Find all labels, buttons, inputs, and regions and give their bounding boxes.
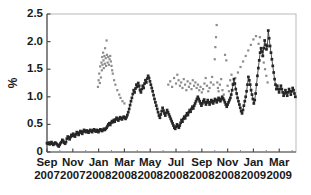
data-point [263,39,266,42]
data-point [250,89,253,92]
data-point [110,60,112,62]
data-point [173,77,175,79]
data-point [229,97,232,100]
data-point [235,92,238,95]
data-point [177,79,179,81]
data-point [216,81,218,83]
data-point [260,47,263,50]
data-point [167,84,169,86]
data-point [150,83,153,86]
data-point [249,83,252,86]
data-point [105,57,107,59]
data-point [190,88,192,90]
data-point [239,66,241,68]
data-point [187,114,190,117]
data-point [269,45,272,48]
data-point [214,58,216,60]
data-point [116,89,118,91]
data-point [248,79,251,82]
data-point [127,111,130,114]
data-point [129,104,132,107]
data-point [259,36,261,38]
data-point [104,63,106,65]
data-point [181,87,183,89]
data-point [221,89,223,91]
data-point [255,35,257,37]
data-point [265,75,267,77]
data-point [252,102,255,105]
data-point [189,82,191,84]
data-point [280,84,283,87]
data-point [227,85,229,87]
data-point [106,54,108,56]
data-point [217,87,219,89]
data-point [100,61,102,63]
data-point [208,87,210,89]
data-point [268,37,271,40]
data-point [230,74,232,76]
data-point [278,91,281,94]
data-point [241,112,244,115]
data-point [103,55,105,57]
data-point [108,58,110,60]
data-point [159,116,162,119]
data-point [97,86,99,88]
data-point [247,49,249,51]
series-outliers [97,24,269,105]
data-point [294,95,297,98]
data-point [231,89,234,92]
data-point [159,113,162,116]
data-point [162,109,165,112]
data-point [271,65,274,68]
data-point [242,109,245,112]
data-point [183,78,185,80]
data-point [171,86,173,88]
data-point [199,86,201,88]
data-point [245,55,247,57]
data-point [142,87,145,90]
data-point [113,79,115,81]
data-point [251,93,254,96]
data-point [258,59,261,62]
data-point [194,81,196,83]
data-point [121,100,123,102]
data-point [105,65,107,67]
data-point [156,108,159,111]
data-point [276,84,279,87]
data-point [114,84,116,86]
series-main-points [46,29,297,148]
data-point [110,65,112,67]
data-point [108,64,110,66]
data-point [237,100,240,103]
data-point [217,90,219,92]
data-point [266,45,269,48]
data-point [130,100,133,103]
data-point [101,56,103,58]
data-point [185,89,187,91]
data-point [201,91,203,93]
data-point [219,84,221,86]
data-point [264,68,266,70]
data-point [189,110,192,113]
data-point [196,87,198,89]
data-point [193,85,195,87]
data-point [261,50,264,53]
data-point [261,55,264,58]
data-point [223,93,225,95]
data-point [179,85,181,87]
data-point [145,81,148,84]
data-point [255,83,258,86]
data-point [154,101,157,104]
data-point [256,74,259,77]
data-point [245,90,248,93]
data-point [150,87,153,90]
data-point [109,55,111,57]
data-point [107,61,109,63]
data-point [250,44,252,46]
data-point [286,94,289,97]
data-point [98,73,100,75]
data-point [246,83,249,86]
data-point [98,79,100,81]
data-point [247,76,250,79]
data-point [192,107,195,110]
